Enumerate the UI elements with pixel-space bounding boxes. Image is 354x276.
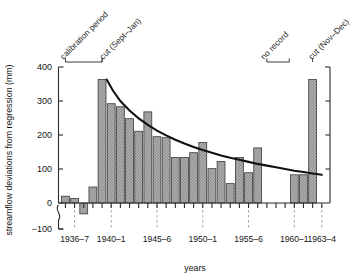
x-tick-label-1960-1: 1960–1 (280, 234, 309, 244)
bar-1945-6 (153, 137, 161, 203)
y-tick-label-400: 400 (37, 62, 52, 72)
bar-1948-9 (181, 157, 189, 203)
bar-1946-7 (162, 138, 170, 203)
bar-1956-7 (254, 148, 262, 203)
x-tick-label-1955-6: 1955–6 (234, 234, 263, 244)
y-tick-label--100: −100 (32, 224, 52, 234)
bar-1960-1 (290, 175, 298, 203)
x-axis-title: years (184, 263, 206, 273)
bar-1943-4 (135, 131, 143, 203)
y-tick-label-200: 200 (37, 130, 52, 140)
chart-figure: −1000100200300400 1936–71940–11945–61950… (0, 0, 354, 276)
x-tick-label-1940-1: 1940–1 (97, 234, 126, 244)
x-tick-label-1950-1: 1950–1 (188, 234, 217, 244)
x-tick-label-1963-4: 1963–4 (307, 234, 336, 244)
y-axis-title: streamflow deviations from regression (m… (4, 64, 14, 235)
bar-1952-3 (217, 162, 225, 203)
bar-1936-7 (71, 199, 79, 203)
x-tick-label-1936-7: 1936–7 (60, 234, 89, 244)
bar-1961-2 (300, 175, 308, 203)
y-tick-label-100: 100 (37, 164, 52, 174)
bar-1955-6 (245, 173, 253, 203)
bar-1942-3 (126, 119, 134, 203)
y-tick-label-0: 0 (47, 198, 52, 208)
bar-1954-5 (235, 157, 243, 203)
bar-1939-40 (98, 80, 106, 203)
bar-1938-9 (89, 187, 97, 203)
bar-1949-50 (190, 153, 198, 203)
bar-1962-3 (309, 80, 317, 203)
x-tick-label-1945-6: 1945–6 (143, 234, 172, 244)
y-tick-label-300: 300 (37, 96, 52, 106)
bar-1951-2 (208, 169, 216, 203)
bar-1941-2 (116, 107, 124, 203)
streamflow-deviation-bar-chart: −1000100200300400 1936–71940–11945–61950… (0, 0, 354, 276)
bar-1940-1 (107, 104, 115, 203)
bar-1935-6 (62, 196, 70, 203)
bar-1947-8 (171, 157, 179, 203)
bar-1953-4 (226, 184, 234, 203)
